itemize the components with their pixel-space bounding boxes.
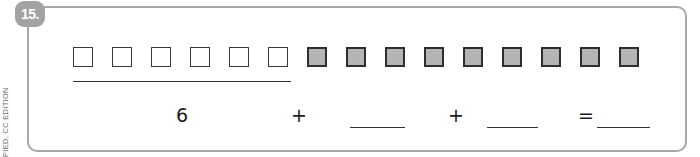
unshaded-square (268, 47, 288, 67)
unshaded-square (112, 47, 132, 67)
equals-sign: = (578, 104, 594, 126)
shaded-square (385, 47, 405, 67)
group-underline (73, 81, 291, 82)
shaded-square (619, 47, 639, 67)
shaded-square (502, 47, 522, 67)
answer-blank-2[interactable] (487, 127, 538, 128)
shaded-square (580, 47, 600, 67)
side-margin-text: PIED, CC EDITION (1, 87, 10, 157)
unshaded-square (73, 47, 93, 67)
first-addend: 6 (176, 104, 188, 126)
problem-frame (27, 6, 687, 152)
unshaded-square (151, 47, 171, 67)
unshaded-square (229, 47, 249, 67)
plus-sign: + (291, 104, 307, 126)
square-model (73, 47, 639, 67)
unshaded-square (190, 47, 210, 67)
shaded-square (424, 47, 444, 67)
answer-blank-1[interactable] (350, 127, 405, 128)
shaded-square (541, 47, 561, 67)
shaded-square (307, 47, 327, 67)
shaded-square (463, 47, 483, 67)
plus-sign: + (448, 104, 464, 126)
shaded-square (346, 47, 366, 67)
problem-number-badge: 15. (15, 1, 45, 27)
answer-blank-sum[interactable] (597, 127, 650, 128)
